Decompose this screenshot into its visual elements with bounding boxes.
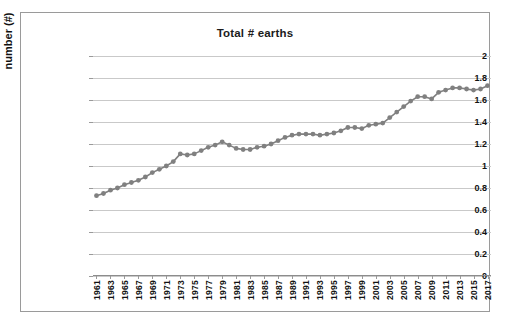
x-tick-mark: [96, 276, 97, 279]
y-tick-mark: [89, 276, 93, 277]
x-tick-mark: [404, 276, 405, 279]
data-point: [185, 153, 190, 158]
x-tick-mark: [306, 276, 307, 279]
line-series: [93, 56, 491, 276]
x-tick-label: 2005: [399, 280, 409, 300]
x-tick-label: 1971: [162, 280, 172, 300]
x-tick-label: 1987: [274, 280, 284, 300]
data-point: [241, 147, 246, 152]
x-tick-mark: [362, 276, 363, 279]
data-point: [150, 170, 155, 175]
x-tick-mark: [376, 276, 377, 279]
data-point: [94, 193, 99, 198]
x-tick-mark: [208, 276, 209, 279]
data-point: [471, 88, 476, 93]
data-point: [192, 152, 197, 157]
data-point: [345, 125, 350, 130]
x-tick-label: 1977: [204, 280, 214, 300]
x-tick-mark: [418, 276, 419, 279]
x-tick-mark: [264, 276, 265, 279]
data-point: [199, 148, 204, 153]
data-point: [220, 139, 225, 144]
x-tick-label: 2003: [385, 280, 395, 300]
data-point: [394, 110, 399, 115]
data-point: [143, 175, 148, 180]
data-point: [318, 133, 323, 138]
data-point: [269, 142, 274, 147]
data-point: [304, 132, 309, 137]
data-point: [206, 145, 211, 150]
data-point: [478, 87, 483, 92]
data-point: [262, 144, 267, 149]
x-tick-label: 1975: [190, 280, 200, 300]
data-point: [234, 146, 239, 151]
x-tick-label: 1979: [218, 280, 228, 300]
data-point: [436, 90, 441, 95]
data-point: [115, 186, 120, 191]
x-tick-label: 1985: [260, 280, 270, 300]
x-tick-label: 1969: [148, 280, 158, 300]
x-tick-mark: [138, 276, 139, 279]
x-tick-label: 1967: [134, 280, 144, 300]
x-tick-label: 1991: [301, 280, 311, 300]
data-point: [408, 99, 413, 104]
x-tick-mark: [124, 276, 125, 279]
x-tick-label: 1961: [92, 280, 102, 300]
data-point: [464, 87, 469, 92]
x-tick-mark: [166, 276, 167, 279]
x-tick-mark: [180, 276, 181, 279]
chart-title: Total # earths: [21, 27, 489, 39]
x-tick-mark: [432, 276, 433, 279]
data-point: [359, 126, 364, 131]
x-tick-mark: [474, 276, 475, 279]
x-tick-label: 2001: [371, 280, 381, 300]
data-point: [443, 88, 448, 93]
data-point: [129, 180, 134, 185]
series-line: [96, 86, 487, 196]
x-tick-mark: [292, 276, 293, 279]
x-tick-mark: [488, 276, 489, 279]
data-point: [276, 138, 281, 143]
data-point: [164, 164, 169, 169]
x-tick-label: 1973: [176, 280, 186, 300]
x-tick-label: 2007: [413, 280, 423, 300]
data-point: [422, 94, 427, 99]
data-point: [136, 178, 141, 183]
data-point: [311, 132, 316, 137]
data-point: [248, 147, 253, 152]
x-tick-mark: [460, 276, 461, 279]
x-tick-label: 2013: [455, 280, 465, 300]
x-tick-label: 1997: [343, 280, 353, 300]
x-tick-label: 1993: [315, 280, 325, 300]
x-tick-label: 1995: [329, 280, 339, 300]
data-point: [101, 191, 106, 196]
x-tick-label: 1965: [120, 280, 130, 300]
x-tick-label: 1999: [357, 280, 367, 300]
data-point: [485, 83, 490, 88]
data-point: [290, 133, 295, 138]
x-tick-label: 2015: [469, 280, 479, 300]
data-point: [283, 135, 288, 140]
data-point: [157, 167, 162, 172]
x-tick-mark: [390, 276, 391, 279]
data-point: [325, 132, 330, 137]
x-tick-label: 2009: [427, 280, 437, 300]
data-point: [429, 97, 434, 102]
data-point: [373, 122, 378, 127]
plot-area: 21.81.61.41.210.80.60.40.20 196119631965…: [93, 56, 491, 276]
data-point: [213, 143, 218, 148]
data-point: [255, 145, 260, 150]
x-tick-label: 2017: [483, 280, 493, 300]
data-point: [415, 94, 420, 99]
x-tick-mark: [110, 276, 111, 279]
data-point: [331, 131, 336, 136]
data-point: [366, 123, 371, 128]
data-point: [401, 104, 406, 109]
data-point: [338, 128, 343, 133]
x-tick-mark: [334, 276, 335, 279]
x-tick-mark: [222, 276, 223, 279]
x-tick-mark: [236, 276, 237, 279]
x-tick-label: 1989: [288, 280, 298, 300]
x-tick-label: 1983: [246, 280, 256, 300]
x-tick-label: 2011: [441, 280, 451, 300]
